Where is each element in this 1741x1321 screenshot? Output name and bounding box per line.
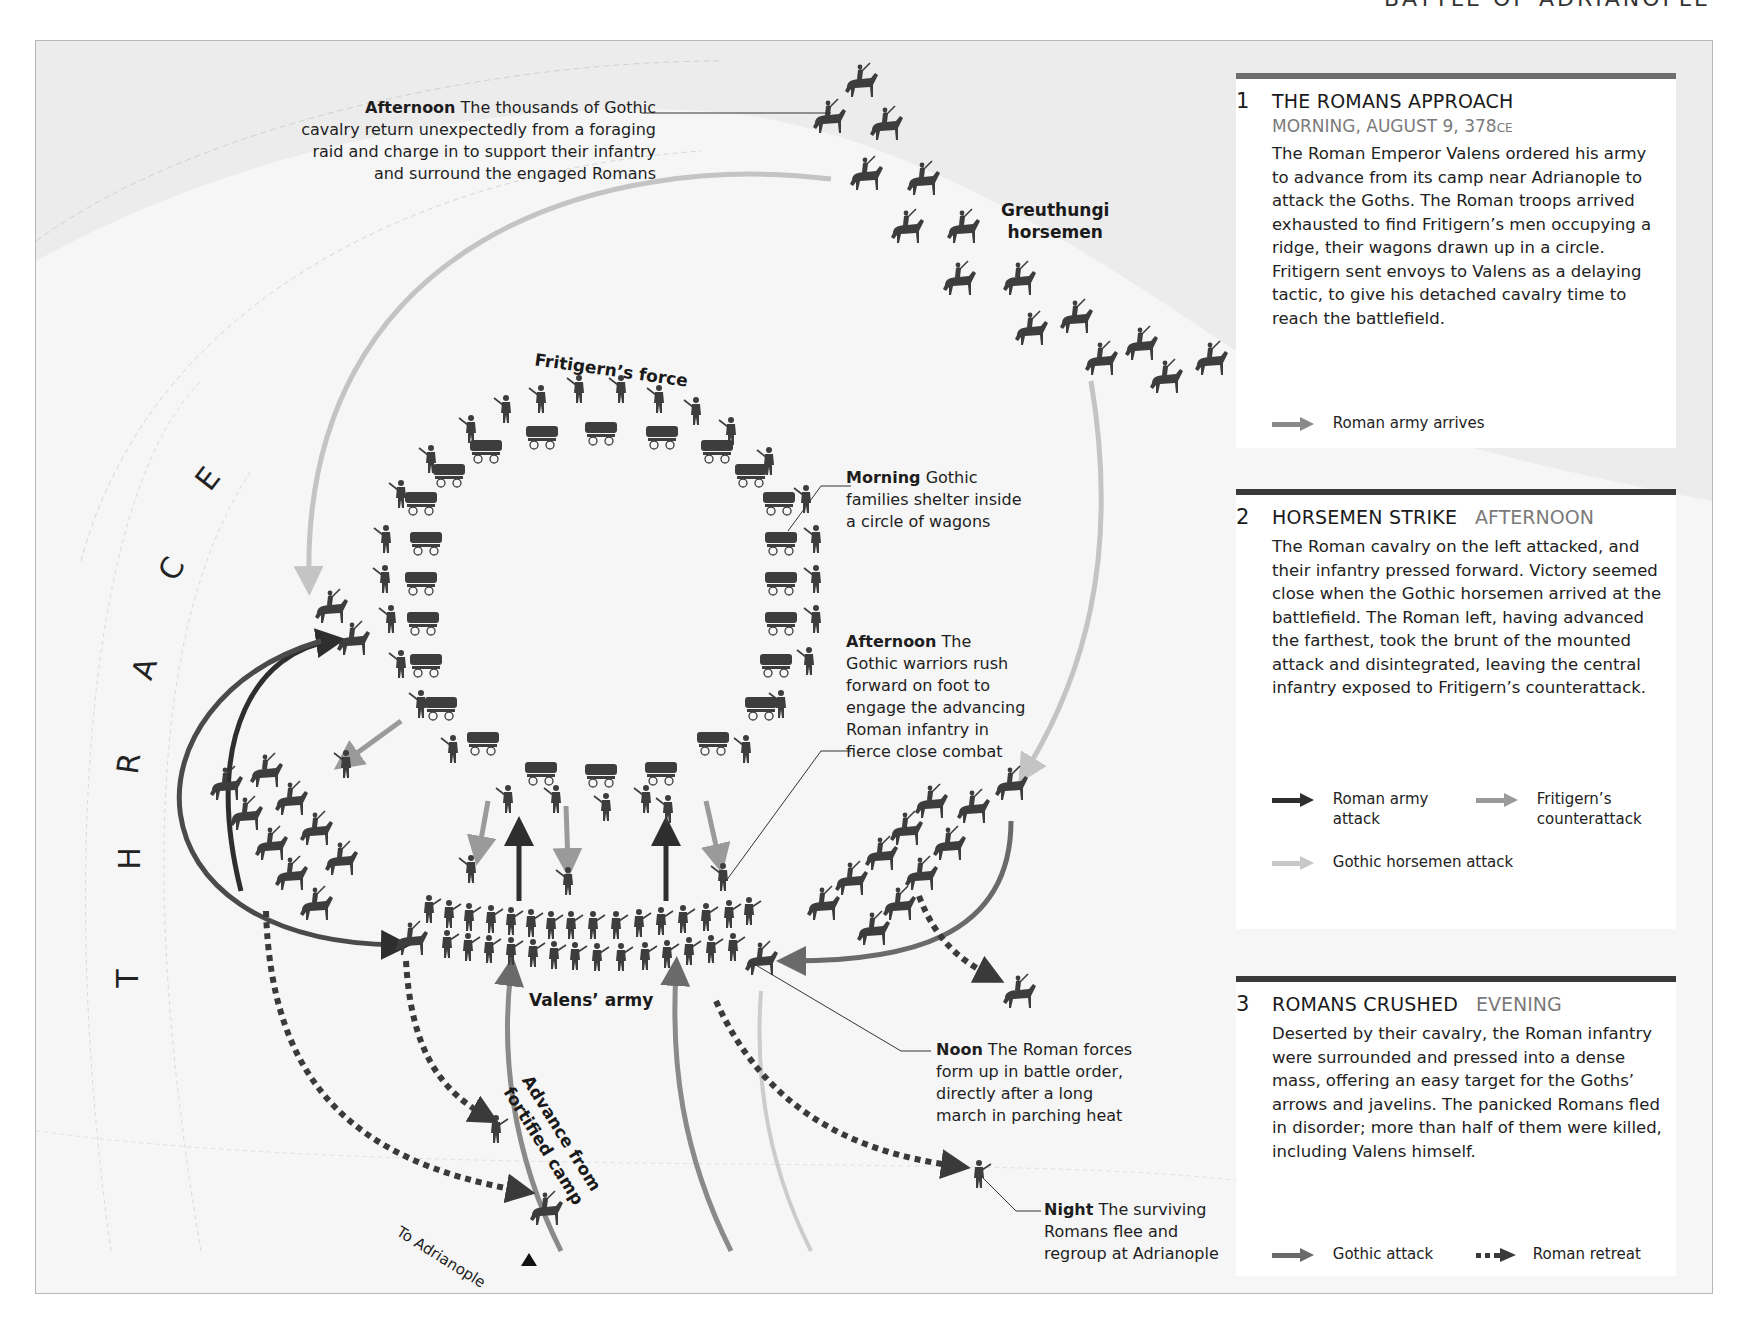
annotation-noon-romans: Noon The Roman forces form up in battle … — [936, 1039, 1132, 1127]
greuthungi-label: Greuthungi horsemen — [1001, 199, 1109, 243]
panel-title: ROMANS CRUSHED — [1272, 993, 1458, 1015]
panel-number: 2 — [1236, 505, 1272, 529]
panel-time: AFTERNOON — [1475, 506, 1594, 528]
battle-map-frame: T H R A C E Fritigern’s force Greuthungi… — [35, 40, 1713, 1294]
region-letter: T — [110, 969, 145, 987]
panel-time: MORNING, AUGUST 9, 378CE — [1272, 116, 1676, 136]
panel-body: The Roman cavalry on the left attacked, … — [1272, 535, 1667, 700]
panel-divider — [1236, 976, 1676, 982]
panel-romans-approach: 1 THE ROMANS APPROACH MORNING, AUGUST 9,… — [1236, 73, 1676, 448]
legend-gothic-attack: Gothic attack — [1272, 1244, 1433, 1264]
panel-romans-crushed: 3 ROMANS CRUSHED EVENING Deserted by the… — [1236, 976, 1676, 1276]
panel-title: THE ROMANS APPROACH — [1272, 90, 1514, 112]
running-head: BATTLE OF ADRIANOPLE — [1384, 0, 1711, 11]
annotation-night-flee: Night The surviving Romans flee and regr… — [1044, 1199, 1219, 1265]
panel-title: HORSEMEN STRIKE — [1272, 506, 1457, 528]
dotted-arrow-icon — [1476, 1248, 1520, 1262]
legend-gothic-horsemen: Gothic horsemen attack — [1272, 852, 1513, 872]
arrow-icon — [1272, 417, 1316, 431]
region-letter: H — [112, 847, 147, 870]
annotation-morning-families: Morning Gothic families shelter inside a… — [846, 467, 1022, 533]
panel-number: 1 — [1236, 89, 1272, 113]
legend-roman-attack: Roman armyattack — [1272, 789, 1428, 829]
panel-body: Deserted by their cavalry, the Roman inf… — [1272, 1022, 1667, 1163]
arrow-icon — [1272, 1248, 1316, 1262]
panel-body: The Roman Emperor Valens ordered his arm… — [1272, 142, 1667, 330]
arrow-icon — [1272, 856, 1316, 870]
panel-number: 3 — [1236, 992, 1272, 1016]
annotation-afternoon-warriors: Afternoon The Gothic warriors rush forwa… — [846, 631, 1025, 763]
legend-roman-arrives: Roman army arrives — [1272, 413, 1485, 433]
annotation-afternoon-cavalry: Afternoon The thousands of Gothic cavalr… — [276, 97, 656, 185]
wagon-circle — [405, 422, 797, 787]
arrow-icon — [1272, 793, 1316, 807]
valens-army-label: Valens’ army — [529, 989, 653, 1011]
panel-horsemen-strike: 2 HORSEMEN STRIKE AFTERNOON The Roman ca… — [1236, 489, 1676, 929]
roman-infantry-line — [424, 895, 761, 971]
legend-fritigern-counterattack: Fritigern’scounterattack — [1476, 789, 1642, 829]
panel-divider — [1236, 73, 1676, 79]
panel-divider — [1236, 489, 1676, 495]
arrow-icon — [1476, 793, 1520, 807]
legend-roman-retreat: Roman retreat — [1476, 1244, 1641, 1264]
panel-time: EVENING — [1476, 993, 1562, 1015]
gothic-infantry — [334, 375, 821, 895]
